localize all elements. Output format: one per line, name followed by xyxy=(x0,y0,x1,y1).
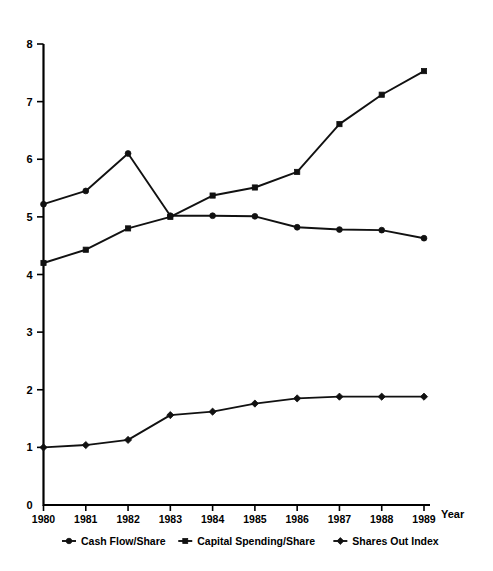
x-tick-label: 1985 xyxy=(243,513,267,525)
data-point-circle-marker xyxy=(421,235,427,241)
y-tick-label: 8 xyxy=(26,38,32,50)
data-point-square-marker xyxy=(379,92,384,97)
data-point-circle-marker xyxy=(379,227,385,233)
x-axis: 1980198119821983198419851986198719881989… xyxy=(32,505,465,525)
y-axis: 012345678 xyxy=(26,38,43,511)
data-point-circle-marker xyxy=(83,188,89,194)
data-point-square-marker xyxy=(183,539,188,544)
data-point-diamond-marker xyxy=(294,395,301,402)
y-tick-label: 5 xyxy=(26,211,32,223)
series-line xyxy=(44,71,425,263)
x-tick-label: 1982 xyxy=(116,513,140,525)
data-point-circle-marker xyxy=(252,213,258,219)
data-point-square-marker xyxy=(125,226,130,231)
x-tick-label: 1987 xyxy=(328,513,352,525)
data-point-square-marker xyxy=(337,121,342,126)
chart-legend: Cash Flow/ShareCapital Spending/ShareSha… xyxy=(62,535,439,547)
series-line xyxy=(44,153,425,238)
x-tick-label: 1989 xyxy=(412,513,436,525)
y-tick-label: 1 xyxy=(26,441,32,453)
data-point-diamond-marker xyxy=(82,441,89,448)
data-point-diamond-marker xyxy=(209,408,216,415)
chart-canvas: 012345678 198019811982198319841985198619… xyxy=(0,0,493,571)
x-tick-label: 1980 xyxy=(32,513,56,525)
data-point-circle-marker xyxy=(66,538,72,544)
data-point-diamond-marker xyxy=(420,393,427,400)
data-point-circle-marker xyxy=(337,227,343,233)
legend-item-3[interactable]: Shares Out Index xyxy=(333,535,439,547)
data-point-diamond-marker xyxy=(337,538,344,545)
y-tick-label: 3 xyxy=(26,326,32,338)
legend-label: Shares Out Index xyxy=(352,535,439,547)
data-point-circle-marker xyxy=(210,213,216,219)
series-layer xyxy=(40,68,428,450)
y-tick-label: 7 xyxy=(26,96,32,108)
series-1 xyxy=(41,151,427,242)
data-point-square-marker xyxy=(168,214,173,219)
line-chart: 012345678 198019811982198319841985198619… xyxy=(0,0,493,571)
y-tick-label: 0 xyxy=(26,499,32,511)
data-point-square-marker xyxy=(83,247,88,252)
data-point-diamond-marker xyxy=(40,444,47,451)
y-tick-label: 4 xyxy=(26,269,33,281)
data-point-square-marker xyxy=(252,185,257,190)
data-point-circle-marker xyxy=(125,151,131,157)
x-tick-label: 1984 xyxy=(201,513,225,525)
data-point-circle-marker xyxy=(294,224,300,230)
y-tick-label: 6 xyxy=(26,153,32,165)
series-3 xyxy=(40,393,428,451)
legend-item-1[interactable]: Cash Flow/Share xyxy=(62,535,166,547)
data-point-square-marker xyxy=(295,169,300,174)
x-tick-label: 1988 xyxy=(370,513,394,525)
x-axis-title: Year xyxy=(441,508,465,520)
series-2 xyxy=(41,68,427,265)
data-point-circle-marker xyxy=(41,201,47,207)
data-point-diamond-marker xyxy=(378,393,385,400)
data-point-square-marker xyxy=(421,68,426,73)
x-tick-label: 1983 xyxy=(159,513,183,525)
data-point-square-marker xyxy=(210,193,215,198)
legend-label: Capital Spending/Share xyxy=(197,535,315,547)
data-point-diamond-marker xyxy=(336,393,343,400)
y-tick-label: 2 xyxy=(26,384,32,396)
legend-item-2[interactable]: Capital Spending/Share xyxy=(178,535,315,547)
data-point-diamond-marker xyxy=(251,400,258,407)
data-point-square-marker xyxy=(41,260,46,265)
x-axis-tick-labels: 1980198119821983198419851986198719881989 xyxy=(32,513,436,525)
legend-label: Cash Flow/Share xyxy=(81,535,166,547)
x-tick-label: 1981 xyxy=(74,513,98,525)
y-axis-tick-labels: 012345678 xyxy=(26,38,33,511)
x-tick-label: 1986 xyxy=(285,513,309,525)
series-line xyxy=(44,397,425,448)
